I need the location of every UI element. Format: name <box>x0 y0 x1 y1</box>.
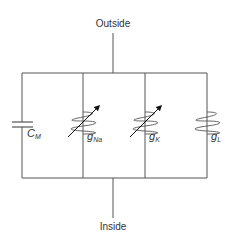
outside-label: Outside <box>96 19 130 29</box>
sodium-conductance-branch <box>68 73 99 178</box>
leak-conductance-label: gL <box>211 131 221 143</box>
sodium-conductance-subscript: Na <box>93 136 102 143</box>
leak-conductance-subscript: L <box>217 136 221 143</box>
potassium-conductance-branch <box>130 73 161 178</box>
potassium-conductance-label: gK <box>149 131 160 143</box>
potassium-conductance-subscript: K <box>155 136 160 143</box>
inside-label: Inside <box>100 222 127 232</box>
capacitor-branch <box>12 73 33 178</box>
circuit-diagram <box>0 0 238 239</box>
leak-conductance-branch <box>195 73 220 178</box>
capacitance-symbol: C <box>27 127 35 139</box>
capacitance-subscript: M <box>35 133 41 140</box>
capacitance-label: CM <box>27 128 41 140</box>
sodium-conductance-label: gNa <box>87 131 102 143</box>
